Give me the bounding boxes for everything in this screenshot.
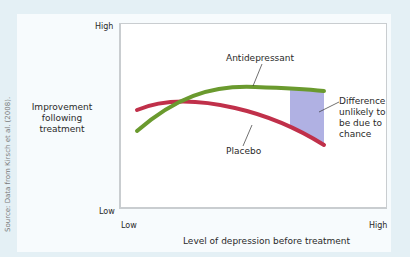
placebo-leader — [243, 125, 252, 146]
antidepressant-label: Antidepressant — [226, 53, 294, 64]
difference-annotation-line: chance — [339, 129, 386, 140]
antidepressant-leader — [253, 64, 262, 86]
y-axis-label-line: treatment — [30, 124, 94, 135]
x-tick-low: Low — [121, 220, 137, 231]
y-tick-high: High — [95, 21, 113, 32]
y-axis-label-line: following — [30, 113, 94, 124]
difference-annotation-line: Difference — [339, 96, 386, 107]
x-tick-high: High — [369, 220, 387, 231]
difference-annotation-line: be due to — [339, 118, 386, 129]
y-tick-low: Low — [99, 206, 115, 217]
x-axis-label: Level of depression before treatment — [183, 236, 350, 247]
y-axis-label: Improvement following treatment — [30, 102, 94, 135]
difference-annotation-line: unlikely to — [339, 107, 386, 118]
placebo-label: Placebo — [226, 146, 261, 157]
difference-annotation: Difference unlikely to be due to chance — [339, 96, 386, 140]
y-axis-label-line: Improvement — [30, 102, 94, 113]
source-citation: Source: Data from Kirsch et al. (2008). — [4, 97, 12, 232]
